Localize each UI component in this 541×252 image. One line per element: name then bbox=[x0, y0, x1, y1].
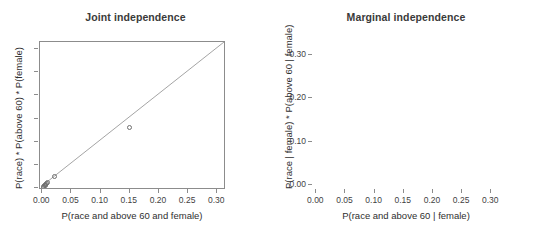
y-axis-tick bbox=[308, 184, 312, 185]
x-axis-tick bbox=[461, 189, 462, 193]
x-axis-tick-label: 0.00 bbox=[307, 195, 324, 205]
y-axis-tick bbox=[34, 164, 38, 165]
x-axis-tick-label: 0.05 bbox=[336, 195, 353, 205]
x-axis-tick bbox=[100, 189, 101, 193]
x-axis-tick bbox=[187, 189, 188, 193]
x-axis-tick bbox=[374, 189, 375, 193]
y-axis-tick bbox=[34, 118, 38, 119]
y-axis-tick bbox=[34, 48, 38, 49]
panel-joint-independence: Joint independence P(race and above 60 a… bbox=[0, 0, 271, 252]
x-axis-title-marginal: P(race and above 60 | female) bbox=[342, 210, 470, 221]
x-axis-tick-label: 0.30 bbox=[482, 195, 499, 205]
panel-title-marginal: Marginal independence bbox=[271, 11, 541, 23]
identity-reference-line-joint bbox=[40, 42, 224, 188]
y-axis-tick bbox=[308, 141, 312, 142]
x-axis-tick-label: 0.25 bbox=[179, 195, 196, 205]
x-axis-tick bbox=[70, 189, 71, 193]
panel-title-joint: Joint independence bbox=[0, 11, 271, 23]
x-axis-tick-label: 0.20 bbox=[150, 195, 167, 205]
y-axis-tick bbox=[308, 97, 312, 98]
data-point bbox=[52, 174, 57, 179]
x-axis-tick-label: 0.15 bbox=[121, 195, 138, 205]
y-axis-tick-label: 0.30 bbox=[275, 49, 306, 59]
plot-area-joint bbox=[39, 41, 225, 189]
panel-marginal-independence: Marginal independence P(race and above 6… bbox=[271, 0, 541, 252]
plot-inner-joint bbox=[40, 42, 224, 188]
x-axis-tick-label: 0.00 bbox=[33, 195, 50, 205]
x-axis-tick bbox=[344, 189, 345, 193]
x-axis-tick-label: 0.15 bbox=[395, 195, 412, 205]
x-axis-tick bbox=[216, 189, 217, 193]
x-axis-tick-label: 0.25 bbox=[453, 195, 470, 205]
y-axis-title-joint: P(race) * P(above 60) * P(female) bbox=[13, 47, 24, 189]
x-axis-tick bbox=[315, 189, 316, 193]
scatter-plot-figure: Joint independence P(race and above 60 a… bbox=[0, 0, 541, 252]
y-axis-tick bbox=[34, 94, 38, 95]
x-axis-tick bbox=[432, 189, 433, 193]
y-axis-tick bbox=[308, 54, 312, 55]
x-axis-tick bbox=[158, 189, 159, 193]
y-axis-tick bbox=[34, 71, 38, 72]
x-axis-tick-label: 0.05 bbox=[62, 195, 79, 205]
x-axis-tick-label: 0.10 bbox=[365, 195, 382, 205]
y-axis-tick-label: 0.10 bbox=[275, 136, 306, 146]
x-axis-tick-label: 0.30 bbox=[208, 195, 225, 205]
y-axis-tick-label: 0.00 bbox=[275, 179, 306, 189]
x-axis-tick bbox=[41, 189, 42, 193]
x-axis-tick-label: 0.10 bbox=[91, 195, 108, 205]
y-axis-tick bbox=[34, 141, 38, 142]
x-axis-title-joint: P(race and above 60 and female) bbox=[61, 210, 202, 221]
x-axis-tick bbox=[129, 189, 130, 193]
x-axis-tick bbox=[490, 189, 491, 193]
y-axis-tick-label: 0.20 bbox=[275, 92, 306, 102]
x-axis-tick-label: 0.20 bbox=[424, 195, 441, 205]
y-axis-tick bbox=[34, 187, 38, 188]
x-axis-tick bbox=[403, 189, 404, 193]
